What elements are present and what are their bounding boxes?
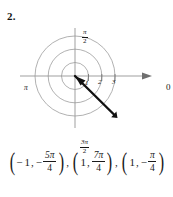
r-value-1: 1 [24,156,32,168]
ordered-pair-1: ( − 1 , − 5π 4 ) [8,150,66,174]
axis-label-zero: 0 [166,83,171,92]
open-paren-3: ( [121,152,126,172]
answer-expression: ( − 1 , − 5π 4 ) , ( 1 , 7π 4 [0,150,173,174]
axis-label-pi-over-2: π 2 [82,28,88,45]
worksheet-page: 2. [0,0,173,197]
theta-sign-1: − [36,156,43,168]
open-paren-1: ( [9,152,14,172]
polar-axis-arrowhead [142,73,152,80]
r-value-3: 1 [128,156,136,168]
polar-plot-figure: π 2 3π 2 π 0 [12,14,162,139]
theta-fraction-1: 5π 4 [43,150,57,174]
theta-sign-3: − [141,156,148,168]
ordered-pair-2: ( 1 , 7π 4 ) [71,150,114,174]
radial-tick-label-3: 3 [112,78,116,86]
radial-tick-label-2: 2 [98,78,102,86]
axis-label-pi: π [24,84,28,92]
theta-fraction-3: π 4 [148,150,157,174]
close-paren-2: ) [107,152,112,172]
close-paren-1: ) [58,152,63,172]
r-sign-1: − [16,156,23,168]
r-value-2: 1 [80,156,88,168]
theta-fraction-2: 7π 4 [92,150,106,174]
radial-tick-label-1: 1 [85,79,89,87]
close-paren-3: ) [158,152,163,172]
ordered-pair-3: ( 1 , − π 4 ) [120,150,166,174]
open-paren-2: ( [73,152,78,172]
